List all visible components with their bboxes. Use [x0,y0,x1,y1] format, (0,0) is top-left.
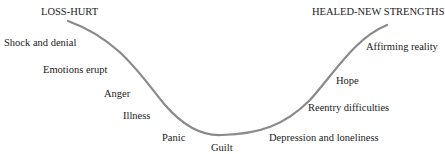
stage-guilt: Guilt [211,142,233,154]
stage-panic: Panic [162,132,185,144]
start-label: LOSS-HURT [41,6,98,18]
stage-illness: Illness [123,110,150,122]
end-label: HEALED-NEW STRENGTHS [312,6,445,18]
stage-emotions-erupt: Emotions erupt [43,64,107,76]
stage-depression-and-loneliness: Depression and loneliness [269,132,379,144]
stage-shock-and-denial: Shock and denial [4,37,76,49]
stage-hope: Hope [336,75,359,87]
stage-anger: Anger [104,88,130,100]
stage-affirming-reality: Affirming reality [366,41,438,53]
stage-reentry-difficulties: Reentry difficulties [308,102,389,114]
